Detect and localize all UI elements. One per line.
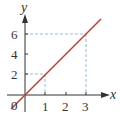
x-axis-arrow-icon [101, 92, 110, 98]
y-tick-2: 2 [11, 67, 18, 82]
chart-svg: x y 0 1 2 3 2 4 6 [0, 0, 120, 120]
y-axis-label: y [19, 0, 28, 15]
x-tick-1: 1 [42, 99, 49, 114]
y-tick-4: 4 [11, 47, 18, 62]
x-tick-3: 3 [82, 99, 89, 114]
x-tick-2: 2 [62, 99, 69, 114]
y-axis-arrow-icon [22, 14, 28, 23]
x-axis-label: x [109, 87, 117, 102]
origin-label: 0 [11, 98, 18, 113]
y-tick-6: 6 [11, 27, 18, 42]
chart: x y 0 1 2 3 2 4 6 [0, 0, 120, 120]
